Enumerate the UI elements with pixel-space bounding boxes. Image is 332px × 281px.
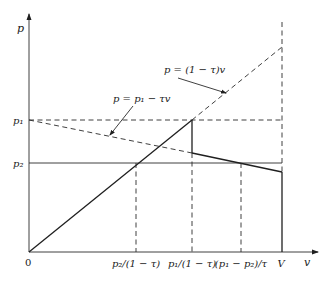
falling-line-solid: [192, 153, 282, 172]
x-tick-p2-over-1-minus-tau: p₂/(1 − τ): [112, 258, 160, 269]
rising-line-dashed: [192, 47, 282, 120]
falling-line-label: p = p₁ − τv: [113, 93, 171, 104]
origin-label: 0: [25, 257, 31, 268]
price-tax-diagram: p v 0 p₁ p₂ p₂/(1 − τ) p₁/(1 − τ) (p₁ − …: [0, 0, 332, 281]
x-axis-label: v: [304, 256, 311, 269]
y-tick-p2: p₂: [13, 158, 23, 169]
falling-line-dashed: [29, 120, 192, 153]
x-tick-V: V: [277, 258, 286, 269]
x-tick-p1-over-1-minus-tau: p₁/(1 − τ): [168, 258, 216, 269]
rising-line-label: p = (1 − τ)v: [164, 64, 226, 75]
rising-line-leader-arrow: [178, 78, 226, 93]
x-tick-p1-minus-p2-over-tau: (p₁ − p₂)/τ: [215, 258, 268, 269]
y-tick-p1: p₁: [13, 115, 23, 126]
falling-line-leader-arrow: [110, 106, 133, 135]
rising-line-solid: [29, 120, 192, 252]
y-axis-label: p: [17, 22, 24, 35]
